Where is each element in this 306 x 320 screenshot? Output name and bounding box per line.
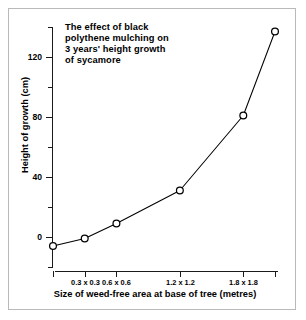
data-point-marker (113, 220, 120, 227)
chart-title-line-3: 3 years' height growth (65, 44, 166, 55)
y-tick-label: 120 (16, 52, 42, 62)
chart-title-line-1: The effect of black (65, 22, 149, 33)
y-tick-label: 0 (16, 232, 42, 242)
x-axis-label: Size of weed-free area at base of tree (… (20, 289, 290, 299)
x-tick-label: 1.8 x 1.8 (222, 278, 266, 287)
data-point-marker (176, 187, 183, 194)
y-tick-label: 40 (16, 172, 42, 182)
y-axis-ticks (46, 28, 53, 268)
data-point-marker (50, 243, 57, 250)
data-point-marker (272, 28, 279, 35)
x-tick-label: 0.6 x 0.6 (95, 278, 139, 287)
chart-title-line-4: of sycamore (65, 55, 121, 66)
data-point-marker (240, 112, 247, 119)
y-axis-label: Height of growth (cm) (20, 70, 30, 180)
data-point-marker (81, 235, 88, 242)
x-tick-label: 1.2 x 1.2 (159, 278, 203, 287)
y-tick-label: 80 (16, 112, 42, 122)
chart-title-line-2: polythene mulching on (65, 33, 169, 44)
